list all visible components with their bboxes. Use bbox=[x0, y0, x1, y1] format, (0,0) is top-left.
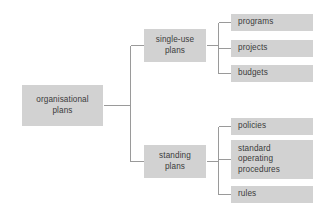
node-rules-label: rules bbox=[238, 189, 256, 200]
node-budgets-label: budgets bbox=[238, 68, 268, 79]
organisational-plans-diagram: organisational plans single-use plans st… bbox=[0, 0, 333, 216]
node-single-use-plans: single-use plans bbox=[144, 29, 206, 62]
node-standing-plans: standing plans bbox=[144, 145, 206, 178]
node-projects: projects bbox=[231, 40, 313, 57]
node-rules: rules bbox=[231, 186, 313, 203]
node-programs: programs bbox=[231, 14, 313, 31]
node-organisational-plans: organisational plans bbox=[22, 85, 103, 126]
node-standing-plans-label: standing plans bbox=[159, 151, 191, 172]
node-programs-label: programs bbox=[238, 17, 273, 28]
node-projects-label: projects bbox=[238, 43, 267, 54]
node-single-use-plans-label: single-use plans bbox=[156, 35, 194, 56]
node-standard-operating-procedures-label: standard operating procedures bbox=[238, 144, 280, 176]
node-standard-operating-procedures: standard operating procedures bbox=[231, 140, 313, 179]
node-organisational-plans-label: organisational plans bbox=[36, 95, 88, 116]
node-budgets: budgets bbox=[231, 65, 313, 82]
node-policies: policies bbox=[231, 118, 313, 135]
node-policies-label: policies bbox=[238, 121, 266, 132]
